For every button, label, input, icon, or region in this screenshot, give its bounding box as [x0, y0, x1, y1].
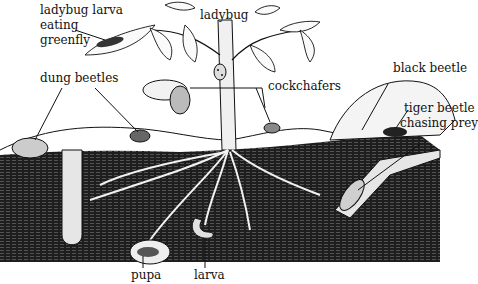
- pupa-chamber: [130, 240, 170, 264]
- label-black-beetle: black beetle: [393, 62, 467, 75]
- cockchafer-flying: [143, 80, 190, 114]
- label-ladybug-larva: ladybug larva: [40, 4, 123, 17]
- dung-beetle-burrow: [62, 150, 82, 245]
- label-eating: eating: [40, 19, 78, 32]
- label-chasing-prey: chasing prey: [400, 117, 478, 130]
- label-greenfly: greenfly: [40, 34, 90, 47]
- label-cockchafers: cockchafers: [268, 80, 341, 93]
- label-larva: larva: [194, 269, 225, 282]
- label-tiger-beetle: tiger beetle: [404, 102, 475, 115]
- label-dung-beetles: dung beetles: [40, 72, 118, 85]
- label-ladybug: ladybug: [200, 9, 249, 22]
- cockchafer-ground: [264, 123, 280, 133]
- label-pupa: pupa: [131, 269, 161, 282]
- ladybug: [214, 64, 226, 80]
